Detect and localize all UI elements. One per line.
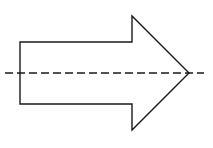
diagram-canvas xyxy=(0,0,213,148)
